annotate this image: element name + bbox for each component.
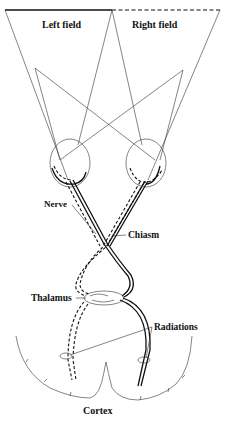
left-field-label: Left field <box>42 19 82 30</box>
right-field-label: Right field <box>132 19 178 30</box>
left-radiation <box>68 302 88 380</box>
thalamus-label: Thalamus <box>31 293 72 303</box>
radiations-leader-1 <box>70 327 152 355</box>
chiasm-label: Chiasm <box>128 230 159 240</box>
left-eye <box>50 139 90 187</box>
left-radiation-marker <box>60 353 72 359</box>
cortex-outline <box>16 336 192 400</box>
right-eye <box>126 139 166 187</box>
visual-pathway-diagram: Left field Right field Nerve Chias <box>0 0 226 426</box>
nerve-leader <box>72 205 96 234</box>
right-radiation <box>120 298 150 386</box>
chiasm-leader <box>112 235 126 236</box>
thalamus <box>84 291 124 305</box>
cortex-label: Cortex <box>83 405 112 416</box>
left-optic-nerve <box>66 180 133 297</box>
projection-lines <box>5 10 220 180</box>
radiations-label: Radiations <box>154 322 198 332</box>
nerve-label: Nerve <box>44 199 67 209</box>
